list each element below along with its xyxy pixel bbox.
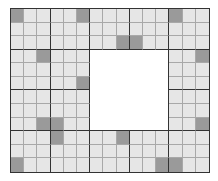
grid-cell[interactable] (183, 104, 196, 118)
grid-cell-shaded[interactable] (77, 9, 90, 23)
grid-cell[interactable] (64, 23, 77, 37)
grid-cell[interactable] (11, 131, 24, 145)
grid-cell[interactable] (196, 23, 209, 37)
grid-cell[interactable] (24, 36, 37, 50)
grid-cell[interactable] (183, 90, 196, 104)
grid-cell[interactable] (103, 131, 116, 145)
grid-cell[interactable] (90, 36, 103, 50)
grid-cell[interactable] (77, 90, 90, 104)
grid-cell[interactable] (37, 104, 50, 118)
grid-cell[interactable] (77, 158, 90, 172)
grid-cell[interactable] (130, 9, 143, 23)
grid-cell[interactable] (24, 145, 37, 159)
grid-cell[interactable] (196, 9, 209, 23)
grid-cell-shaded[interactable] (77, 77, 90, 91)
grid-cell[interactable] (24, 90, 37, 104)
grid-cell[interactable] (51, 36, 64, 50)
grid-cell[interactable] (77, 36, 90, 50)
grid-cell[interactable] (130, 23, 143, 37)
grid-cell-shaded[interactable] (117, 131, 130, 145)
grid-cell[interactable] (37, 63, 50, 77)
grid-cell-shaded[interactable] (156, 158, 169, 172)
grid-cell[interactable] (51, 145, 64, 159)
grid-cell[interactable] (24, 50, 37, 64)
grid-cell[interactable] (103, 36, 116, 50)
grid-cell[interactable] (24, 23, 37, 37)
grid-cell[interactable] (196, 145, 209, 159)
grid-cell[interactable] (24, 118, 37, 132)
grid-cell[interactable] (169, 36, 182, 50)
grid-cell[interactable] (196, 90, 209, 104)
grid-cell[interactable] (37, 158, 50, 172)
grid-cell[interactable] (37, 23, 50, 37)
grid-cell-shaded[interactable] (169, 9, 182, 23)
grid-cell[interactable] (51, 77, 64, 91)
grid-cell[interactable] (64, 145, 77, 159)
grid-cell[interactable] (196, 36, 209, 50)
grid-cell[interactable] (77, 118, 90, 132)
grid-cell[interactable] (183, 50, 196, 64)
grid-cell[interactable] (183, 118, 196, 132)
grid-cell[interactable] (11, 36, 24, 50)
grid-cell[interactable] (37, 9, 50, 23)
grid-cell[interactable] (37, 36, 50, 50)
grid-cell[interactable] (37, 145, 50, 159)
grid-cell[interactable] (183, 9, 196, 23)
grid-cell[interactable] (196, 158, 209, 172)
grid-cell[interactable] (196, 131, 209, 145)
grid-cell[interactable] (183, 145, 196, 159)
grid-cell[interactable] (51, 50, 64, 64)
grid-cell[interactable] (183, 131, 196, 145)
grid-cell[interactable] (24, 77, 37, 91)
grid-cell[interactable] (11, 145, 24, 159)
grid-cell[interactable] (77, 63, 90, 77)
grid-cell[interactable] (64, 36, 77, 50)
grid-cell[interactable] (103, 23, 116, 37)
grid-cell[interactable] (11, 63, 24, 77)
grid-cell[interactable] (64, 50, 77, 64)
grid-cell[interactable] (11, 23, 24, 37)
grid-cell[interactable] (51, 23, 64, 37)
grid-cell[interactable] (64, 63, 77, 77)
grid-cell[interactable] (130, 145, 143, 159)
grid-cell[interactable] (183, 77, 196, 91)
grid-cell[interactable] (51, 104, 64, 118)
grid-cell-shaded[interactable] (169, 158, 182, 172)
grid-cell-shaded[interactable] (117, 36, 130, 50)
grid-cell[interactable] (64, 90, 77, 104)
grid-cell[interactable] (156, 9, 169, 23)
grid-cell[interactable] (37, 90, 50, 104)
grid-cell[interactable] (169, 90, 182, 104)
grid-cell[interactable] (90, 9, 103, 23)
grid-cell-shaded[interactable] (196, 118, 209, 132)
grid-cell[interactable] (24, 63, 37, 77)
grid-cell[interactable] (183, 23, 196, 37)
grid-cell[interactable] (77, 104, 90, 118)
grid-cell[interactable] (169, 118, 182, 132)
grid-cell[interactable] (77, 145, 90, 159)
grid-cell[interactable] (169, 104, 182, 118)
grid-cell[interactable] (64, 104, 77, 118)
grid-cell[interactable] (77, 131, 90, 145)
grid-cell[interactable] (51, 90, 64, 104)
grid-cell[interactable] (130, 131, 143, 145)
grid-cell[interactable] (103, 145, 116, 159)
grid-cell[interactable] (90, 145, 103, 159)
grid-cell[interactable] (169, 23, 182, 37)
grid-cell[interactable] (117, 158, 130, 172)
grid-cell[interactable] (64, 131, 77, 145)
grid-cell[interactable] (156, 23, 169, 37)
grid-cell[interactable] (11, 90, 24, 104)
grid-cell-shaded[interactable] (11, 9, 24, 23)
grid-cell[interactable] (64, 118, 77, 132)
grid-cell[interactable] (169, 131, 182, 145)
grid-cell[interactable] (64, 9, 77, 23)
grid-cell[interactable] (156, 36, 169, 50)
grid-cell[interactable] (196, 63, 209, 77)
grid-cell[interactable] (11, 77, 24, 91)
grid-cell-shaded[interactable] (51, 131, 64, 145)
grid-cell[interactable] (37, 77, 50, 91)
grid-cell[interactable] (183, 36, 196, 50)
grid-cell[interactable] (77, 50, 90, 64)
grid-cell[interactable] (51, 9, 64, 23)
